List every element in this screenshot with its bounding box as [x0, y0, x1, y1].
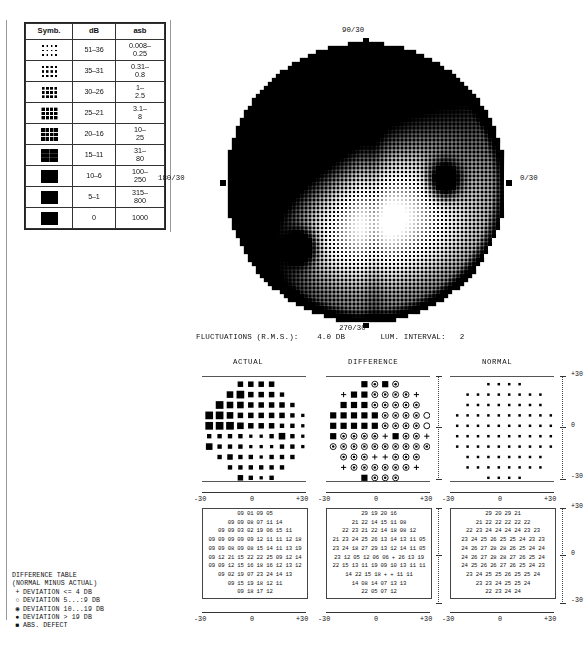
panel-title-normal: NORMAL: [482, 358, 512, 366]
difference-legend-glyph: ■: [12, 622, 23, 630]
normal-symbols-canvas: [450, 377, 554, 481]
status-line: FLUCTUATIONS (R.M.S.): 4.0 DB LUM. INTER…: [196, 333, 546, 341]
fluctuations-label: FLUCTUATIONS (R.M.S.):: [196, 333, 298, 341]
numeric-row: 23 24 25 26 25 25 24 23 23: [451, 536, 555, 545]
difference-legend-glyph: ●: [12, 614, 23, 622]
numeric-row: 09 09 03 02 19 06 15 11: [203, 527, 307, 536]
difference-legend-subtitle: (NORMAL MINUS ACTUAL): [12, 580, 104, 588]
numeric-row: 09 15 19 18 12 11: [203, 580, 307, 589]
visual-field-map: 90/30 270/30 180/30 0/30: [196, 28, 546, 338]
axis-y-difference-table: [438, 508, 439, 604]
legend-header-db: dB: [73, 24, 116, 40]
legend-db-value: 5–1: [73, 187, 116, 208]
numeric-row: 09 09 09 09 09 12 11 11 12 18: [203, 536, 307, 545]
legend-row: 35–310.31–0.8: [26, 61, 165, 82]
axis-y-label-mid: 0: [571, 422, 575, 429]
numeric-table-actual: 09 01 09 0509 09 08 07 11 1409 09 03 02 …: [202, 508, 308, 599]
numeric-row: 24 26 27 28 28 26 25 24 24: [451, 545, 555, 554]
difference-legend-entry: +DEVIATION <= 4 DB: [12, 589, 104, 597]
legend-asb-value: 1–2.5: [115, 82, 164, 103]
axis-x-difference-table-mid: 0: [374, 615, 378, 623]
numeric-row: 14 08 14 07 13 13: [327, 580, 431, 589]
axis-x-difference-table-max: +30: [420, 615, 432, 623]
axis-x-actual-table-min: -30: [194, 615, 206, 623]
legend-row: 51–360.008–0.25: [26, 40, 165, 61]
legend-row: 30–261–2.5: [26, 82, 165, 103]
axis-x-actual-table-mid: 0: [250, 615, 254, 623]
axis-y-label-top: +30: [571, 371, 583, 378]
axis-y-difference: [438, 376, 439, 480]
legend-symbol-patch: [26, 61, 73, 82]
legend-row: 20–1610–25: [26, 124, 165, 145]
numeric-row: 21 22 14 15 11 08: [327, 519, 431, 528]
numeric-row: 09 01 09 05: [203, 510, 307, 519]
axis-x-actual-table-max: +30: [296, 615, 308, 623]
numeric-row: 09 09 12 15 16 18 16 12 13 12: [203, 562, 307, 571]
numeric-row: 23 23 24 25 25 24: [451, 580, 555, 589]
difference-legend-glyph: ○: [12, 597, 23, 605]
legend-header-symb: Symb.: [26, 24, 73, 40]
difference-legend-text: DEVIATION 5...:9 DB: [23, 597, 100, 604]
axis-x-actual-table: [202, 612, 306, 613]
legend-symbol-patch: [26, 103, 73, 124]
lum-interval-value: 2: [460, 333, 465, 341]
numeric-table-difference: 29 19 20 1621 22 14 15 11 0822 23 21 22 …: [326, 508, 432, 599]
numeric-row: 29 19 20 16: [327, 510, 431, 519]
legend-db-value: 20–16: [73, 124, 116, 145]
panel-normal: [450, 376, 554, 482]
numeric-row: 22 15 13 11 19 09 10 13 11 11: [327, 562, 431, 571]
difference-legend-text: DEVIATION 10...19 DB: [23, 606, 104, 613]
legend-symbol-patch: [26, 82, 73, 103]
difference-legend-entry: ◉DEVIATION 10...19 DB: [12, 606, 104, 614]
legend-asb-value: 0.008–0.25: [115, 40, 164, 61]
axis-x-normal-mid: 0: [498, 495, 502, 503]
axis-x-normal-max: +30: [544, 495, 556, 503]
legend-row: 15–1131–80: [26, 145, 165, 166]
numeric-row: 09 12 21 15 22 22 25 09 12 14: [203, 554, 307, 563]
axis-x-normal-table-min: -30: [442, 615, 454, 623]
legend-asb-value: 0.31–0.8: [115, 61, 164, 82]
legend-table: Symb. dB asb 51–360.008–0.2535–310.31–0.…: [25, 23, 165, 229]
legend-row: 01000: [26, 208, 165, 229]
left-rule: [6, 20, 7, 620]
legend-db-value: 15–11: [73, 145, 116, 166]
difference-symbols-canvas: [326, 377, 430, 481]
axis-x-difference: [326, 492, 430, 493]
legend-db-value: 25–21: [73, 103, 116, 124]
legend-symbol-patch: [26, 145, 73, 166]
numeric-row: 29 20 29 21: [451, 510, 555, 519]
field-label-right: 0/30: [520, 174, 538, 182]
numeric-row: 23 12 05 12 06 06 + 26 13 19: [327, 554, 431, 563]
legend-asb-value: 3.1–8: [115, 103, 164, 124]
legend-header-asb: asb: [115, 24, 164, 40]
difference-legend-text: DEVIATION > 19 DB: [23, 614, 92, 621]
legend-symbol-patch: [26, 124, 73, 145]
actual-symbols-canvas: [202, 377, 306, 481]
legend-symbol-patch: [26, 187, 73, 208]
field-grayscale-canvas: [216, 38, 516, 328]
legend-db-value: 51–36: [73, 40, 116, 61]
axis-y-table-label-mid: 0: [571, 550, 575, 557]
numeric-row: 21 22 22 22 22 22: [451, 519, 555, 528]
axis-y-label-bottom: -30: [571, 473, 583, 480]
numeric-row: 21 23 24 25 26 13 14 13 11 05: [327, 536, 431, 545]
difference-legend-entry: ○DEVIATION 5...:9 DB: [12, 597, 104, 605]
legend-right-rule: [170, 20, 171, 232]
field-label-left: 180/30: [158, 174, 185, 182]
axis-y-table-label-bottom: -30: [571, 597, 583, 604]
difference-legend-glyph: +: [12, 589, 23, 597]
axis-x-normal-table-max: +30: [544, 615, 556, 623]
numeric-row: 23 24 18 27 29 13 12 14 11 05: [327, 545, 431, 554]
axis-x-normal-table: [450, 612, 554, 613]
axis-x-difference-table: [326, 612, 430, 613]
numeric-row: 23 24 25 25 26 25 25 24: [451, 571, 555, 580]
numeric-table-normal: 29 20 29 2121 22 22 22 22 2222 23 24 24 …: [450, 508, 556, 599]
numeric-row: 09 02 19 07 23 24 14 13: [203, 571, 307, 580]
numeric-row: 14 22 15 18 + + 11 11: [327, 571, 431, 580]
numeric-row: 09 18 17 12: [203, 588, 307, 597]
legend-asb-value: 1000: [115, 208, 164, 229]
numeric-row: 24 26 27 28 28 27 26 25 24: [451, 554, 555, 563]
field-label-bottom: 270/30: [339, 324, 366, 332]
difference-legend-entries: +DEVIATION <= 4 DB○DEVIATION 5...:9 DB◉D…: [12, 589, 104, 631]
legend-symbol-patch: [26, 208, 73, 229]
